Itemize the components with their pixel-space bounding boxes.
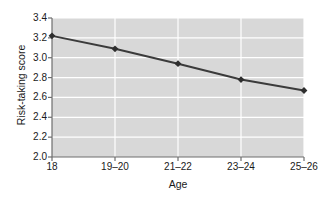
x-axis-title: Age bbox=[52, 178, 304, 190]
x-axis-tick-label: 18 bbox=[22, 161, 82, 173]
x-axis-tick-label: 25–26 bbox=[274, 161, 328, 173]
y-axis-title: Risk-taking score bbox=[14, 5, 28, 165]
x-axis-tick-label: 21–22 bbox=[148, 161, 208, 173]
x-axis-tick-label: 19–20 bbox=[85, 161, 145, 173]
risk-taking-score-line-chart: 3.43.23.02.82.62.42.22.0 1819–2021–2223–… bbox=[0, 0, 328, 198]
x-axis-tick-label: 23–24 bbox=[211, 161, 271, 173]
x-axis-tick-labels: 1819–2021–2223–2425–26 bbox=[52, 161, 304, 175]
